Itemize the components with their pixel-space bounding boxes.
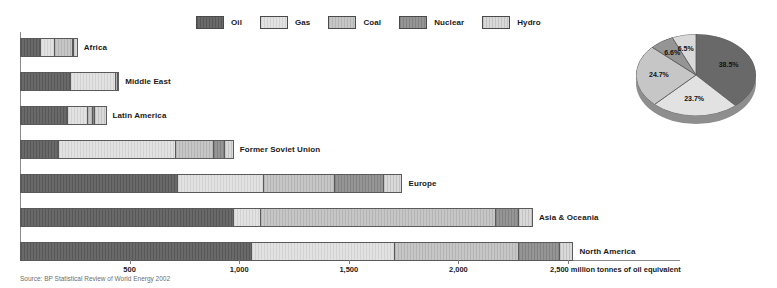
stacked-bar (20, 72, 119, 91)
bar-row: Europe (20, 174, 437, 193)
bar-segment-oil (20, 140, 59, 159)
bar-segment-hydro (95, 106, 107, 125)
legend-swatch-oil (196, 16, 224, 29)
stacked-bar (20, 106, 107, 125)
bar-segment-coal (261, 208, 496, 227)
bar-segment-nuclear (214, 140, 225, 159)
bar-segment-gas (68, 106, 88, 125)
x-tick-label: 1,500 (339, 265, 358, 274)
stacked-bar (20, 38, 78, 57)
legend-item-hydro: Hydro (482, 16, 541, 29)
bar-segment-nuclear (335, 174, 384, 193)
stacked-bar (20, 140, 234, 159)
x-tick-mark (568, 260, 569, 264)
bar-segment-nuclear (496, 208, 519, 227)
bar-segment-gas (71, 72, 116, 91)
x-axis: 5001,0001,5002,0002,500 million tonnes o… (0, 260, 777, 276)
bar-row: Latin America (20, 106, 166, 125)
bar-row-label: Middle East (125, 77, 171, 86)
x-tick-mark (239, 260, 240, 264)
bar-segment-hydro (225, 140, 234, 159)
legend-swatch-coal (328, 16, 356, 29)
x-tick-label: 2,000 (449, 265, 468, 274)
bar-segment-hydro (560, 242, 573, 261)
legend-label-oil: Oil (231, 18, 242, 27)
chart-legend: OilGasCoalNuclearHydro (196, 14, 559, 30)
legend-label-nuclear: Nuclear (434, 18, 464, 27)
bar-segment-gas (41, 38, 55, 57)
stacked-bar (20, 242, 573, 261)
bar-segment-oil (20, 242, 252, 261)
bar-segment-coal (395, 242, 519, 261)
bar-segment-nuclear (519, 242, 561, 261)
bar-segment-oil (20, 38, 41, 57)
legend-label-hydro: Hydro (517, 18, 541, 27)
bar-segment-gas (234, 208, 261, 227)
x-tick-mark (130, 260, 131, 264)
bar-row-label: Latin America (113, 111, 167, 120)
legend-label-coal: Coal (363, 18, 381, 27)
bar-segment-hydro (384, 174, 403, 193)
bar-row-label: Africa (84, 43, 107, 52)
bar-row-label: Europe (408, 179, 436, 188)
legend-item-nuclear: Nuclear (399, 16, 464, 29)
x-tick-label: 2,500 million tonnes of oil equivalent (550, 265, 681, 274)
bar-row: Former Soviet Union (20, 140, 320, 159)
pie-label-gas: 23.7% (684, 95, 704, 102)
bar-segment-gas (59, 140, 175, 159)
x-tick-mark (349, 260, 350, 264)
pie-label-oil: 38.5% (719, 61, 739, 68)
bar-segment-coal (264, 174, 334, 193)
bar-segment-oil (20, 174, 178, 193)
bar-segment-hydro (519, 208, 533, 227)
bar-segment-hydro (118, 72, 119, 91)
legend-swatch-hydro (482, 16, 510, 29)
source-note: Source: BP Statistical Review of World E… (20, 275, 170, 282)
bar-row-label: Asia & Oceania (539, 213, 599, 222)
x-tick-label: 1,000 (230, 265, 249, 274)
bar-segment-gas (252, 242, 394, 261)
legend-item-coal: Coal (328, 16, 381, 29)
bar-segment-coal (176, 140, 214, 159)
stacked-bar (20, 208, 533, 227)
bar-row: North America (20, 242, 636, 261)
bar-row: Africa (20, 38, 107, 57)
bar-segment-coal (55, 38, 73, 57)
bar-segment-oil (20, 72, 71, 91)
legend-swatch-gas (260, 16, 288, 29)
legend-item-oil: Oil (196, 16, 242, 29)
legend-label-gas: Gas (295, 18, 310, 27)
stacked-bar (20, 174, 402, 193)
bar-segment-hydro (74, 38, 78, 57)
bar-row: Asia & Oceania (20, 208, 599, 227)
bar-segment-gas (178, 174, 265, 193)
pie-label-coal: 24.7% (649, 71, 669, 78)
pie-label-hydro: 6.5% (678, 45, 694, 52)
bar-segment-oil (20, 106, 68, 125)
bar-segment-oil (20, 208, 234, 227)
legend-item-gas: Gas (260, 16, 310, 29)
bar-row: Middle East (20, 72, 171, 91)
legend-swatch-nuclear (399, 16, 427, 29)
x-tick-label: 500 (123, 265, 136, 274)
bar-row-label: North America (579, 247, 635, 256)
x-tick-mark (458, 260, 459, 264)
energy-mix-pie-chart: 38.5%23.7%24.7%6.6%6.5% (628, 14, 768, 134)
bar-row-label: Former Soviet Union (240, 145, 321, 154)
